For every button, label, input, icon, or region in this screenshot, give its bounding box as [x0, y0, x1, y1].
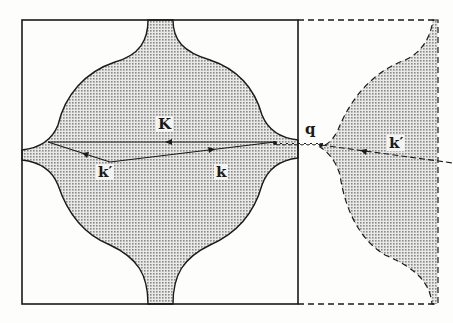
label-q: q	[303, 121, 318, 137]
label-k-prime-right: k′	[387, 135, 405, 151]
diagram-canvas	[0, 0, 453, 323]
vertex-dot	[273, 141, 277, 145]
label-K: K	[156, 116, 173, 132]
fermi-region-main	[22, 20, 298, 304]
fermi-region-neighbour	[320, 20, 438, 304]
label-k-prime-left: k′	[96, 164, 114, 180]
label-k: k	[214, 164, 228, 180]
